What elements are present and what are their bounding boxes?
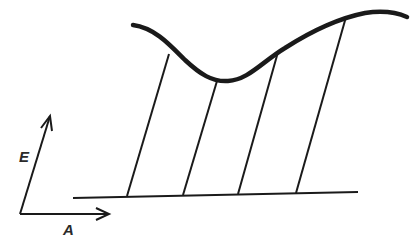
- connector-line-1: [127, 54, 169, 196]
- connector-line-4: [296, 17, 346, 193]
- horizontal-axis-label: A: [63, 221, 74, 238]
- vertical-axis-label: E: [19, 148, 29, 165]
- axes: [20, 116, 109, 220]
- connector-line-3: [238, 52, 278, 194]
- diagram: [0, 0, 415, 244]
- connector-line-2: [183, 81, 217, 195]
- baseline: [73, 192, 358, 198]
- vertical-axis-arrow: [20, 116, 50, 214]
- surface-curve: [133, 12, 407, 81]
